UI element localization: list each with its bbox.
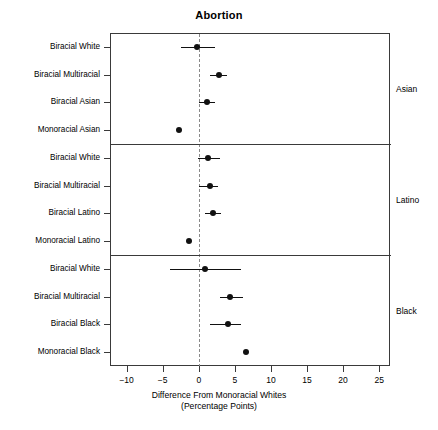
x-axis-tick <box>127 366 128 372</box>
data-point <box>194 44 200 50</box>
x-axis-tick-label: 0 <box>184 376 214 385</box>
x-axis-tick-label: 5 <box>220 376 250 385</box>
data-point <box>225 321 231 327</box>
x-axis-tick-label: 25 <box>364 376 394 385</box>
y-axis-label: Biracial White <box>0 43 100 51</box>
chart-title: Abortion <box>0 9 438 21</box>
data-point <box>186 238 192 244</box>
panel-divider <box>111 255 391 256</box>
y-axis-label: Biracial White <box>0 265 100 273</box>
panel-label-asian: Asian <box>396 84 417 94</box>
x-axis-title-line1: Difference From Monoracial Whites <box>0 390 438 401</box>
x-axis-tick-label: 10 <box>256 376 286 385</box>
x-axis-tick-label: −5 <box>148 376 178 385</box>
data-point <box>207 183 213 189</box>
x-axis-title-line2: (Percentage Points) <box>0 401 438 412</box>
y-axis-tick <box>104 269 110 270</box>
data-point <box>243 349 249 355</box>
y-axis-tick <box>104 158 110 159</box>
x-axis-tick <box>163 366 164 372</box>
y-axis-label: Biracial Multiracial <box>0 293 100 301</box>
y-axis-label: Biracial Multiracial <box>0 71 100 79</box>
y-axis-label: Monoracial Black <box>0 348 100 356</box>
panel-label-black: Black <box>396 306 417 316</box>
x-axis-tick <box>307 366 308 372</box>
x-axis-tick-label: −10 <box>112 376 142 385</box>
data-point <box>204 99 210 105</box>
y-axis-label: Monoracial Asian <box>0 126 100 134</box>
x-axis-tick <box>379 366 380 372</box>
y-axis-label: Biracial White <box>0 154 100 162</box>
x-axis-tick-label: 15 <box>292 376 322 385</box>
y-axis-tick <box>104 324 110 325</box>
x-axis-tick <box>199 366 200 372</box>
chart-figure: Abortion AsianBiracial WhiteBiracial Mul… <box>0 0 438 430</box>
x-axis-tick <box>343 366 344 372</box>
y-axis-label: Biracial Latino <box>0 209 100 217</box>
data-point <box>176 127 182 133</box>
y-axis-tick <box>104 213 110 214</box>
data-point <box>216 72 222 78</box>
y-axis-tick <box>104 130 110 131</box>
data-point <box>202 266 208 272</box>
y-axis-tick <box>104 186 110 187</box>
y-axis-label: Biracial Black <box>0 320 100 328</box>
y-axis-tick <box>104 352 110 353</box>
y-axis-tick <box>104 102 110 103</box>
y-axis-label: Biracial Asian <box>0 98 100 106</box>
panel-divider <box>111 144 391 145</box>
plot-area <box>110 33 390 366</box>
zero-reference-line <box>199 34 200 367</box>
x-axis-tick <box>235 366 236 372</box>
y-axis-tick <box>104 75 110 76</box>
data-point <box>227 294 233 300</box>
panel-label-latino: Latino <box>396 195 419 205</box>
x-axis-tick-label: 20 <box>328 376 358 385</box>
y-axis-label: Biracial Multiracial <box>0 182 100 190</box>
x-axis-tick <box>271 366 272 372</box>
y-axis-tick <box>104 241 110 242</box>
y-axis-label: Monoracial Latino <box>0 237 100 245</box>
y-axis-tick <box>104 297 110 298</box>
y-axis-tick <box>104 47 110 48</box>
